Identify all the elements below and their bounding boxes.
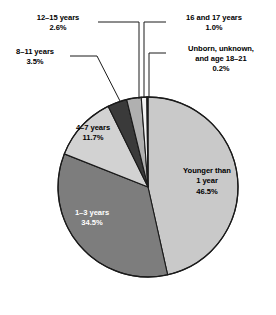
slice-pct-4-7-years: 11.7% (58, 133, 128, 143)
slice-pct-1-3-years: 34.5% (56, 218, 128, 228)
leader-line-8-11-years (70, 56, 120, 101)
callout-pct-8-11-years: 3.5% (2, 57, 68, 67)
callout-label-8-11-years: 8–11 years 3.5% (2, 47, 68, 67)
leader-lines (70, 22, 166, 101)
leader-line-12-15-years (98, 22, 139, 99)
pie-chart: 12–15 years 2.6% 8–11 years 3.5% 16 and … (0, 0, 276, 315)
slice-text-younger-line1: Younger than (183, 166, 231, 175)
slice-label-younger-than-1-year: Younger than 1 year 46.5% (170, 166, 244, 197)
slice-text-4-7-years: 4–7 years (76, 123, 110, 132)
callout-label-12-15-years: 12–15 years 2.6% (19, 13, 97, 33)
slice-label-4-7-years: 4–7 years 11.7% (58, 123, 128, 144)
slice-text-1-3-years: 1–3 years (75, 208, 109, 217)
callout-pct-12-15-years: 2.6% (19, 23, 97, 33)
leader-line-16-and-17-years (144, 22, 166, 98)
slice-text-younger-line2: 1 year (170, 176, 244, 186)
slice-pct-younger-than-1-year: 46.5% (170, 187, 244, 197)
callout-text-8-11-years: 8–11 years (16, 47, 54, 56)
callout-pct-unborn: 0.2% (168, 64, 274, 74)
callout-label-16-and-17-years: 16 and 17 years 1.0% (168, 13, 260, 33)
callout-text-unborn-line1: Unborn, unknown, (188, 44, 254, 53)
callout-text-12-15-years: 12–15 years (37, 13, 80, 22)
callout-text-unborn-line2: and age 18–21 (168, 54, 274, 64)
callout-label-unborn: Unborn, unknown, and age 18–21 0.2% (168, 44, 274, 74)
slice-label-1-3-years: 1–3 years 34.5% (56, 208, 128, 229)
callout-pct-16-and-17-years: 1.0% (168, 23, 260, 33)
leader-line-unborn (149, 53, 166, 97)
callout-text-16-and-17-years: 16 and 17 years (186, 13, 242, 22)
